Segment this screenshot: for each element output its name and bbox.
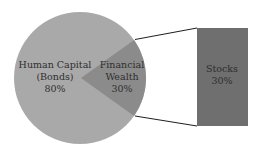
pie-of-bar-chart: Human Capital (Bonds) 80% Financial Weal… <box>0 0 259 149</box>
stocks-label: Stocks <box>206 63 238 74</box>
financial-wealth-pct: 30% <box>111 83 132 94</box>
financial-wealth-label-line2: Wealth <box>105 71 138 82</box>
human-capital-label-line1: Human Capital <box>19 59 92 70</box>
connector-line-bottom <box>135 116 197 126</box>
financial-wealth-label-line1: Financial <box>100 59 145 70</box>
stocks-pct: 30% <box>211 75 232 86</box>
human-capital-pct: 80% <box>44 83 65 94</box>
human-capital-label-line2: (Bonds) <box>36 71 73 82</box>
connector-line-top <box>135 28 197 40</box>
